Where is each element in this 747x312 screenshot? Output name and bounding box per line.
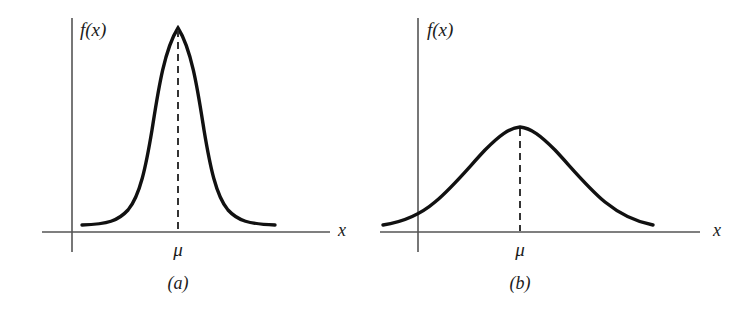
panel-a-plot bbox=[0, 0, 374, 312]
panel-a: f(x) x μ (a) bbox=[0, 0, 374, 312]
panel-caption-b: (b) bbox=[510, 274, 531, 292]
figure-root: f(x) x μ (a) f(x) x μ (b) bbox=[0, 0, 747, 312]
y-axis-label-b: f(x) bbox=[427, 20, 453, 39]
panel-caption-a: (a) bbox=[168, 274, 189, 292]
x-axis-label-a: x bbox=[338, 221, 346, 239]
x-axis-label-b: x bbox=[713, 221, 721, 239]
panel-b: f(x) x μ (b) bbox=[373, 0, 747, 312]
density-curve-b bbox=[383, 127, 653, 225]
mean-label-b: μ bbox=[515, 240, 525, 259]
mean-label-a: μ bbox=[173, 240, 183, 259]
panel-b-plot bbox=[373, 0, 747, 312]
y-axis-label-a: f(x) bbox=[80, 20, 106, 39]
